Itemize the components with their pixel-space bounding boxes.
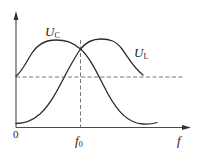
y-axis-arrow-icon <box>14 11 19 20</box>
resonance-diagram: UC UL 0 f0 f <box>0 0 202 150</box>
origin-label: 0 <box>13 128 19 140</box>
f0-label: f0 <box>75 133 83 149</box>
y-axis <box>14 11 19 128</box>
x-axis-arrow-icon <box>182 125 191 130</box>
x-axis-label: f <box>177 133 183 148</box>
ul-curve <box>16 39 143 124</box>
x-axis <box>16 125 191 130</box>
ul-label: UL <box>134 45 148 61</box>
uc-label: UC <box>45 24 60 40</box>
